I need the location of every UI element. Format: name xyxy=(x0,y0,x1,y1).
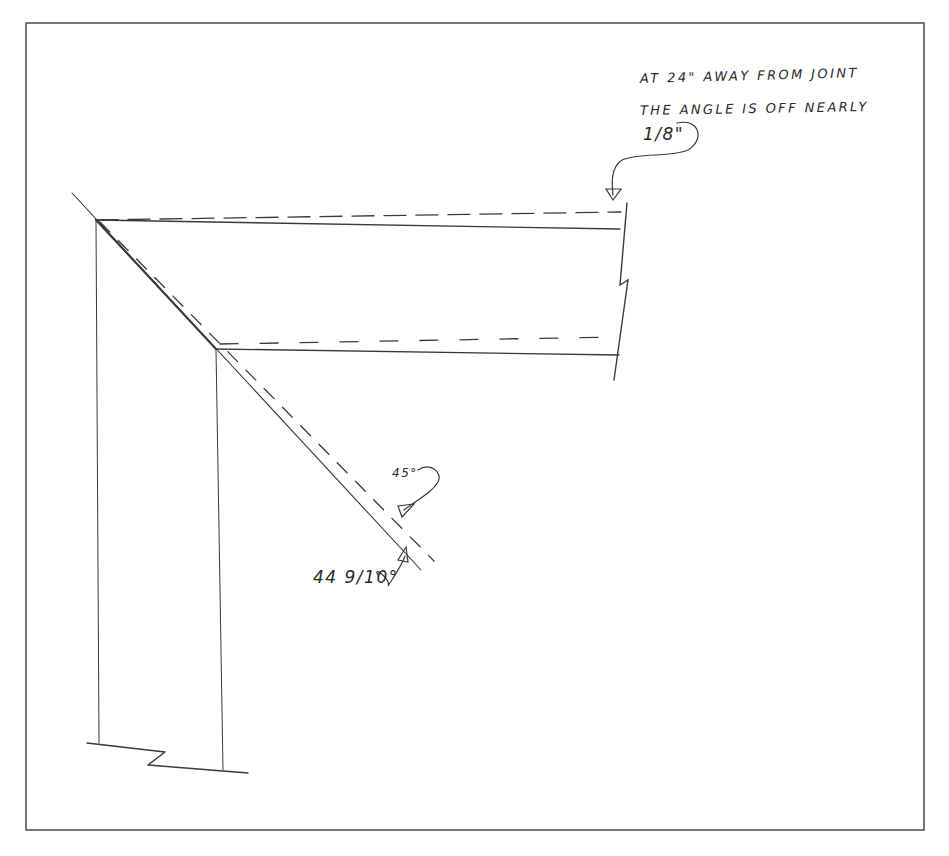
angle-label-45: 45° xyxy=(392,466,418,480)
note-line-1: AT 24" AWAY FROM JOINT xyxy=(639,65,859,86)
bottom-break-line xyxy=(87,743,248,773)
angle-label-44-9-10: 44 9/10° xyxy=(313,567,399,587)
outer-top-edge-solid xyxy=(96,220,620,229)
note-line-2: THE ANGLE IS OFF NEARLY xyxy=(640,99,869,118)
outer-left-edge xyxy=(96,220,99,743)
outer-top-edge-dashed xyxy=(96,212,621,220)
miter-line-solid-heavy xyxy=(96,220,216,349)
note-line-3: 1/8" xyxy=(643,124,684,144)
miter-line-dashed xyxy=(100,222,434,561)
inner-top-edge-dashed xyxy=(220,337,619,344)
arrowhead-45-icon xyxy=(398,504,414,517)
inner-left-edge xyxy=(216,349,223,770)
drawing-frame xyxy=(26,23,924,830)
miter-joint-sketch: AT 24" AWAY FROM JOINT THE ANGLE IS OFF … xyxy=(0,0,949,856)
inner-top-edge-solid xyxy=(216,349,619,355)
